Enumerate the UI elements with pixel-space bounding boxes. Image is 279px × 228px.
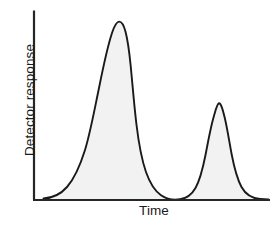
plot-area xyxy=(0,0,279,228)
chromatogram-chart: Detector response Time xyxy=(0,0,279,228)
y-axis-label: Detector response xyxy=(20,5,40,195)
x-axis-label: Time xyxy=(34,203,274,218)
signal-area-fill xyxy=(44,22,269,200)
